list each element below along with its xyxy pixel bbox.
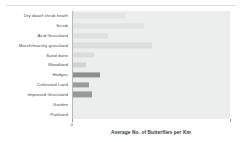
- bar: [73, 72, 100, 77]
- bar-row: Dry dwarf shrub heath: [0, 11, 242, 21]
- bar-track: [72, 80, 242, 90]
- tick-mark: [230, 119, 231, 122]
- bar-track: [72, 60, 242, 70]
- bar-row: Woodland: [0, 60, 242, 70]
- bar: [73, 53, 94, 58]
- bar: [73, 92, 92, 97]
- x-axis-ticks: 0: [0, 119, 242, 128]
- bar: [73, 33, 108, 38]
- bar-track: [72, 11, 242, 21]
- bar-track: [72, 109, 242, 119]
- category-label: Scrub: [0, 23, 72, 28]
- bar-chart-figure: Dry dwarf shrub heathScrubAcid Grassland…: [0, 0, 242, 142]
- bar: [73, 62, 86, 67]
- category-label: Sand dune: [0, 53, 72, 58]
- bar: [73, 23, 144, 28]
- bar: [73, 82, 89, 87]
- bar-track: [72, 40, 242, 50]
- bar-row: Parkland: [0, 109, 242, 119]
- category-label: Woodland: [0, 62, 72, 67]
- bar-row: Hedges: [0, 70, 242, 80]
- category-label: Marsh/marshy grassland: [0, 43, 72, 48]
- top-divider: [6, 5, 236, 6]
- bar-track: [72, 70, 242, 80]
- bar-track: [72, 90, 242, 100]
- bar-row: Cultivated Land: [0, 80, 242, 90]
- tick-label: 0: [71, 122, 73, 127]
- bar-row: Garden: [0, 99, 242, 109]
- x-axis-label: Average No. of Butterflies per Km: [72, 130, 230, 136]
- bar-track: [72, 31, 242, 41]
- bar-row: Scrub: [0, 21, 242, 31]
- category-label: Improved Grassland: [0, 92, 72, 97]
- bar-row: Marsh/marshy grassland: [0, 40, 242, 50]
- bar-track: [72, 21, 242, 31]
- category-label: Parkland: [0, 112, 72, 117]
- bar-track: [72, 50, 242, 60]
- bar-row: Acid Grassland: [0, 31, 242, 41]
- bar: [73, 43, 152, 48]
- category-label: Garden: [0, 102, 72, 107]
- bar-row: Sand dune: [0, 50, 242, 60]
- category-label: Dry dwarf shrub heath: [0, 13, 72, 18]
- bar-track: [72, 99, 242, 109]
- bar: [73, 13, 125, 18]
- category-label: Cultivated Land: [0, 82, 72, 87]
- bar-rows: Dry dwarf shrub heathScrubAcid Grassland…: [0, 11, 242, 119]
- bar-row: Improved Grassland: [0, 90, 242, 100]
- category-label: Hedges: [0, 72, 72, 77]
- category-label: Acid Grassland: [0, 33, 72, 38]
